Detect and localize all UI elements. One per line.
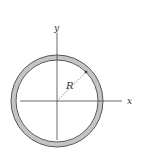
y-axis-label: y: [53, 23, 60, 33]
ring-diagram: y x R: [0, 0, 142, 161]
radius-endpoint-dot: [85, 71, 88, 74]
radius-label: R: [65, 80, 74, 91]
x-axis-label: x: [127, 96, 132, 106]
